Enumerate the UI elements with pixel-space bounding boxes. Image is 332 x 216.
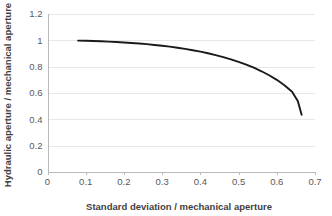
x-axis-tick-labels: 00.10.20.30.40.50.60.7 [45, 176, 322, 187]
y-axis-tick-label: 0.2 [29, 140, 42, 151]
y-axis-tick-label: 0.4 [29, 114, 42, 125]
chart-container: 00.20.40.60.811.2 00.10.20.30.40.50.60.7… [0, 0, 332, 216]
y-axis-tick-labels: 00.20.40.60.811.2 [29, 8, 42, 177]
x-axis-title: Standard deviation / mechanical aperture [86, 201, 272, 212]
y-axis-tick-label: 0.8 [29, 61, 42, 72]
gridlines-group [48, 15, 316, 173]
x-axis-tick-label: 0 [45, 176, 50, 187]
x-axis-tick-label: 0.2 [117, 176, 130, 187]
series-line [78, 41, 302, 115]
data-series-group [78, 41, 302, 115]
y-axis-tick-label: 0 [37, 166, 42, 177]
y-axis-tick-label: 1 [37, 35, 42, 46]
x-axis-tick-label: 0.1 [79, 176, 92, 187]
line-chart: 00.20.40.60.811.2 00.10.20.30.40.50.60.7… [0, 0, 332, 216]
y-axis-tick-label: 0.6 [29, 87, 42, 98]
x-axis-tick-label: 0.7 [308, 176, 321, 187]
x-axis-tick-label: 0.3 [156, 176, 169, 187]
x-axis-tick-label: 0.4 [194, 176, 207, 187]
y-axis-title: Hydraulic aperture / mechanical aperture [2, 3, 13, 187]
axis-lines-group [48, 14, 316, 175]
y-axis-tick-label: 1.2 [29, 8, 42, 19]
x-axis-tick-label: 0.6 [270, 176, 283, 187]
x-axis-tick-label: 0.5 [232, 176, 245, 187]
